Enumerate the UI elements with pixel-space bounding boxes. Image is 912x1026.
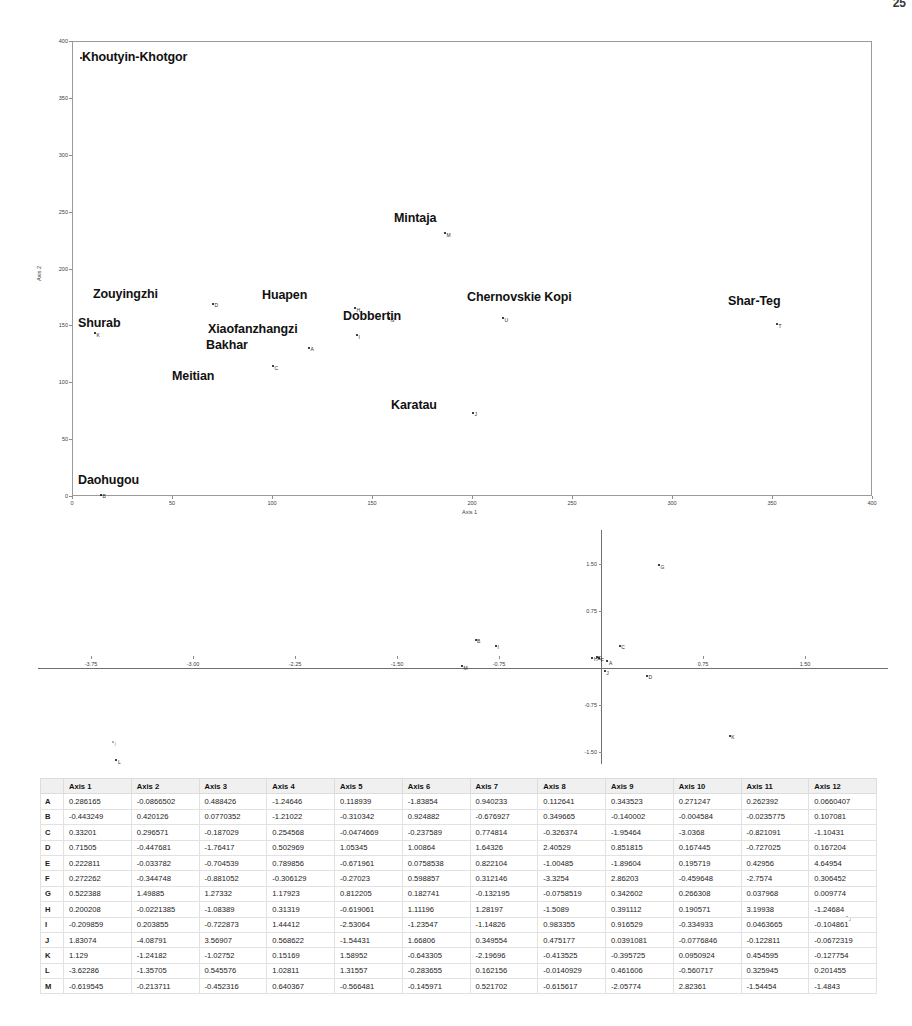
table-cell: 4.64954 (809, 855, 877, 870)
table-cell: 0.42956 (741, 855, 809, 870)
table-cell: 1.00864 (402, 840, 470, 855)
table-cell: -0.0140929 (538, 963, 606, 978)
middle-x-tickmark (295, 656, 296, 659)
top-plot-point-label: T (779, 323, 782, 329)
table-cell: 0.924882 (402, 809, 470, 824)
table-cell: 0.521702 (470, 979, 538, 994)
table-cell: 0.272262 (64, 871, 132, 886)
table-cell: -0.452316 (199, 979, 267, 994)
top-plot-site-label: Bakhar (206, 338, 248, 352)
table-cell: -1.83854 (402, 794, 470, 809)
top-plot-site-label: Mintaja (394, 211, 436, 225)
middle-x-tickmark (703, 656, 704, 659)
table-cell: 0.296571 (131, 825, 199, 840)
top-plot-site-label: Zouyingzhi (93, 287, 158, 301)
top-x-tick-label: 100 (262, 500, 282, 506)
top-plot-frame (72, 41, 872, 496)
table-cell: 0.325945 (741, 963, 809, 978)
table-row: B-0.4432490.4201260.0770352-1.21022-0.31… (41, 809, 877, 824)
middle-y-tickmark (599, 752, 602, 753)
table-cell: -0.0474669 (335, 825, 403, 840)
top-y-tickmark (69, 325, 72, 326)
top-scatter-plot: 050100150200250300350400 050100150200250… (0, 0, 912, 530)
top-y-tick-label: 100 (52, 379, 68, 385)
table-cell: -1.08389 (199, 902, 267, 917)
table-cell: -0.122811 (741, 932, 809, 947)
table-cell: 0.271247 (673, 794, 741, 809)
table-cell: 0.15169 (267, 948, 335, 963)
table-row-header: B (41, 809, 64, 824)
middle-x-tickmark (91, 656, 92, 659)
table-row: J1.83074-4.087913.569070.568622-1.544311… (41, 932, 877, 947)
middle-x-tickmark (499, 656, 500, 659)
table-cell: -1.54431 (335, 932, 403, 947)
table-cell: 1.11196 (402, 902, 470, 917)
table-row: M-0.619545-0.213711-0.4523160.640367-0.5… (41, 979, 877, 994)
top-y-tickmark (69, 41, 72, 42)
middle-x-tick-label: 0.75 (691, 661, 715, 667)
table-cell: -0.560717 (673, 963, 741, 978)
top-plot-point-label: J (475, 411, 478, 417)
table-cell: 0.190571 (673, 902, 741, 917)
table-row: G0.5223881.498851.273321.179230.8122050.… (41, 886, 877, 901)
page-canvas: 25 050100150200250300350400 050100150200… (0, 0, 912, 1026)
table-cell: -0.283655 (402, 963, 470, 978)
table-cell: 0.789856 (267, 855, 335, 870)
table-cell: 0.598857 (402, 871, 470, 886)
middle-plot-point-label: K (731, 734, 734, 740)
table-cell: -0.619061 (335, 902, 403, 917)
table-cell: 1.27332 (199, 886, 267, 901)
top-y-tickmark (69, 269, 72, 270)
top-x-tickmark (572, 496, 573, 499)
table-column-header: Axis 2 (131, 779, 199, 794)
top-plot-point-label: K (97, 332, 100, 338)
table-cell: -0.187029 (199, 825, 267, 840)
table-cell: 0.391112 (606, 902, 674, 917)
table-header-row: Axis 1Axis 2Axis 3Axis 4Axis 5Axis 6Axis… (41, 779, 877, 794)
table-cell: 0.254568 (267, 825, 335, 840)
table-row-header: K (41, 948, 64, 963)
middle-plot-point-label: C (621, 644, 625, 650)
table-cell: 0.812205 (335, 886, 403, 901)
table-cell: 0.167445 (673, 840, 741, 855)
top-x-tick-label: 150 (362, 500, 382, 506)
table-cell: -2.05774 (606, 979, 674, 994)
table-row-header: H (41, 902, 64, 917)
table-cell: -0.237589 (402, 825, 470, 840)
table-cell: -0.27023 (335, 871, 403, 886)
table-cell: -0.722873 (199, 917, 267, 932)
top-plot-site-label: Khoutyin-Khotgor (82, 50, 187, 64)
top-x-tickmark (72, 496, 73, 499)
top-plot-site-label: Chernovskie Kopi (467, 290, 572, 304)
middle-x-tick-label: -3.00 (181, 661, 205, 667)
table-cell: 0.71505 (64, 840, 132, 855)
middle-plot-point-label: L (118, 759, 121, 765)
table-cell: 2.40529 (538, 840, 606, 855)
table-column-header: Axis 3 (199, 779, 267, 794)
table-cell: 1.83074 (64, 932, 132, 947)
table-cell: -0.821091 (741, 825, 809, 840)
table-cell: 0.822104 (470, 855, 538, 870)
table-cell: 1.66806 (402, 932, 470, 947)
table-cell: -1.00485 (538, 855, 606, 870)
top-plot-point-label: A (311, 346, 314, 352)
top-y-tick-label: 400 (52, 38, 68, 44)
table-column-header: Axis 7 (470, 779, 538, 794)
table-cell: -0.344748 (131, 871, 199, 886)
top-plot-point-label: D (215, 302, 219, 308)
table-cell: 0.343523 (606, 794, 674, 809)
top-x-tick-label: 300 (662, 500, 682, 506)
top-y-tickmark (69, 212, 72, 213)
table-cell: 0.33201 (64, 825, 132, 840)
top-x-tickmark (672, 496, 673, 499)
middle-y-tick-label: -0.75 (578, 702, 597, 708)
table-column-header: Axis 10 (673, 779, 741, 794)
middle-x-tickmark (397, 656, 398, 659)
table-cell: 1.64326 (470, 840, 538, 855)
table-cell: -0.413525 (538, 948, 606, 963)
table-cell: -0.566481 (335, 979, 403, 994)
middle-plot-point-label: I (497, 644, 498, 650)
table-cell: -0.459648 (673, 871, 741, 886)
top-y-tick-label: 200 (52, 266, 68, 272)
table-cell: -0.004584 (673, 809, 741, 824)
